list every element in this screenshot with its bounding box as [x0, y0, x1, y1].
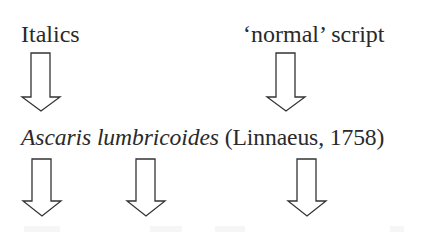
- down-arrow-icon: [22, 53, 60, 111]
- down-arrow-icon: [23, 159, 61, 216]
- cropped-text-fragment: [390, 226, 404, 232]
- cropped-text-fragment: [215, 226, 245, 232]
- cropped-text-fragment: [150, 226, 182, 232]
- cropped-text-fragment: [24, 226, 60, 232]
- arrows-layer: [0, 0, 425, 232]
- down-arrow-icon: [127, 159, 165, 216]
- down-arrow-icon: [267, 53, 305, 111]
- down-arrow-icon: [288, 159, 326, 216]
